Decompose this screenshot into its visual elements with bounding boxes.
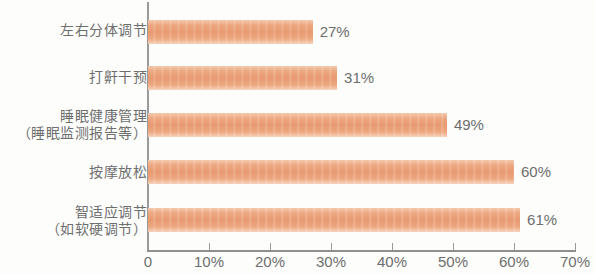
category-label-line: 睡眠健康管理 <box>60 108 147 124</box>
category-label-line: 按摩放松 <box>89 164 147 180</box>
x-axis-tick-label: 40% <box>377 252 407 272</box>
x-axis-tick <box>270 243 271 250</box>
category-label-1: 打鼾干预 <box>89 69 147 86</box>
bar-value-label: 31% <box>344 69 374 87</box>
category-label-line: （如软硬调节） <box>46 221 148 238</box>
category-label-4: 智适应调节 （如软硬调节） <box>46 204 148 238</box>
category-label-3: 按摩放松 <box>89 164 147 181</box>
x-axis-tick <box>331 243 332 250</box>
bar <box>148 20 313 44</box>
bar <box>148 113 447 137</box>
category-label-2: 睡眠健康管理 （睡眠监测报告等） <box>17 108 148 142</box>
bar-value-label: 60% <box>521 163 551 181</box>
category-label-line: （睡眠监测报告等） <box>17 125 148 142</box>
x-axis-tick <box>209 243 210 250</box>
bar-value-label: 61% <box>527 211 557 229</box>
bar-value-label: 49% <box>454 116 484 134</box>
x-axis-tick <box>453 243 454 250</box>
bar-value-label: 27% <box>320 23 350 41</box>
bar <box>148 160 514 184</box>
category-label-line: 智适应调节 <box>75 204 148 220</box>
x-axis-tick <box>575 243 576 250</box>
x-axis-tick-label: 70% <box>560 252 590 272</box>
x-axis-tick-label: 20% <box>255 252 285 272</box>
category-label-line: 左右分体调节 <box>60 22 147 38</box>
x-axis-tick <box>148 243 149 250</box>
category-label-0: 左右分体调节 <box>60 22 147 39</box>
bar <box>148 66 337 90</box>
bar <box>148 208 520 232</box>
x-axis-tick-label: 50% <box>438 252 468 272</box>
x-axis-tick-label: 0 <box>144 252 152 272</box>
category-label-line: 打鼾干预 <box>89 69 147 85</box>
x-axis-tick <box>392 243 393 250</box>
x-axis-tick <box>514 243 515 250</box>
horizontal-bar-chart: 左右分体调节 打鼾干预 睡眠健康管理 （睡眠监测报告等） 按摩放松 智适应调节 … <box>0 0 595 274</box>
x-axis-tick-label: 30% <box>316 252 346 272</box>
x-axis-tick-label: 60% <box>499 252 529 272</box>
x-axis-tick-label: 10% <box>194 252 224 272</box>
